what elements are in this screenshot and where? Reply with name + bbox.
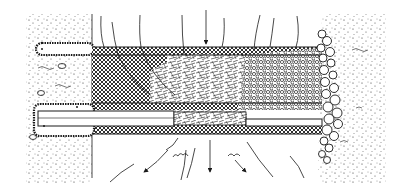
diagram-figure	[0, 0, 413, 192]
gravel-fill	[238, 48, 322, 110]
flow-arrows-bottom	[110, 138, 304, 182]
left-soil	[26, 14, 92, 184]
upper-anchor	[36, 43, 94, 55]
